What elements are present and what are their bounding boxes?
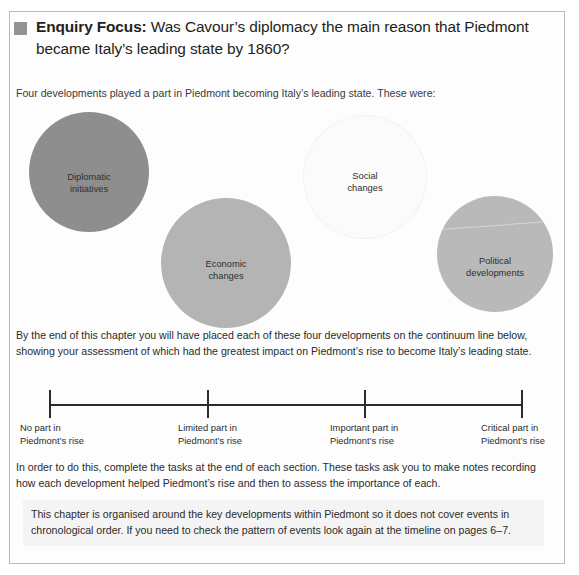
development-label-line1: Political [466, 255, 524, 267]
development-circle-diplomatic[interactable]: Diplomatic initiatives [29, 112, 149, 232]
enquiry-focus-page: Enquiry Focus: Was Cavour’s diplomacy th… [0, 0, 579, 575]
development-label-line2: changes [347, 182, 382, 194]
continuum-label-line1: No part in [20, 422, 84, 435]
enquiry-focus-heading: Enquiry Focus: Was Cavour’s diplomacy th… [36, 16, 563, 60]
continuum-label-3[interactable]: Important part in Piedmont’s rise [330, 422, 398, 448]
continuum-label-line2: Piedmont’s rise [330, 435, 398, 448]
development-label-line2: initiatives [67, 183, 110, 195]
continuum-label-4[interactable]: Critical part in Piedmont’s rise [481, 422, 545, 448]
tasks-text: In order to do this, complete the tasks … [16, 459, 552, 491]
continuum-label-1[interactable]: No part in Piedmont’s rise [20, 422, 84, 448]
enquiry-focus-label: Enquiry Focus: [36, 18, 147, 35]
continuum-label-line2: Piedmont’s rise [481, 435, 545, 448]
continuum-intro-text: By the end of this chapter you will have… [16, 327, 550, 359]
continuum-label-line1: Important part in [330, 422, 398, 435]
continuum-label-line2: Piedmont’s rise [20, 435, 84, 448]
enquiry-focus-header: Enquiry Focus: Was Cavour’s diplomacy th… [14, 16, 563, 60]
development-label-line2: developments [466, 267, 524, 279]
development-label-line2: changes [206, 270, 247, 282]
chapter-note-box: This chapter is organised around the key… [23, 500, 544, 546]
continuum-label-line1: Critical part in [481, 422, 545, 435]
development-label-line1: Economic [206, 258, 247, 270]
development-label-line1: Diplomatic [67, 171, 110, 183]
development-circle-social[interactable]: Social changes [304, 116, 426, 238]
development-circle-economic[interactable]: Economic changes [161, 198, 291, 328]
continuum-label-line1: Limited part in [178, 422, 242, 435]
intro-text: Four developments played a part in Piedm… [16, 86, 559, 102]
continuum-label-line2: Piedmont’s rise [178, 435, 242, 448]
continuum-label-2[interactable]: Limited part in Piedmont’s rise [178, 422, 242, 448]
square-bullet-icon [14, 22, 27, 35]
development-circle-political[interactable]: Political developments [437, 196, 553, 312]
development-label-line1: Social [347, 170, 382, 182]
